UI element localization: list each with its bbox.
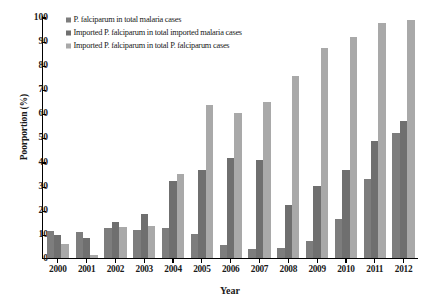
x-tick-mark [317, 259, 318, 263]
x-tick-mark [115, 259, 116, 263]
x-tick-label: 2002 [101, 264, 130, 274]
x-tick-cell [187, 259, 216, 263]
x-axis-title: Year [42, 285, 418, 296]
bar [285, 205, 292, 257]
bar [112, 222, 119, 258]
bar [407, 20, 414, 258]
bar [256, 160, 263, 258]
x-tick-mark [201, 259, 202, 263]
x-tick-mark [403, 259, 404, 263]
bar [364, 179, 371, 258]
x-tick-mark [57, 259, 58, 263]
x-tick-label: 2005 [187, 264, 216, 274]
bar-group [274, 16, 303, 258]
x-tick-label: 2009 [303, 264, 332, 274]
bar-group [216, 16, 245, 258]
bar [90, 255, 97, 257]
bar-group [159, 16, 188, 258]
legend-label: Imported P. falciparum in total imported… [74, 28, 242, 37]
legend-swatch-icon [66, 44, 71, 49]
x-tick-mark [288, 259, 289, 263]
bar [177, 174, 184, 258]
bar [371, 141, 378, 258]
bar [227, 158, 234, 258]
x-tick-cell [389, 259, 418, 263]
bar-group [101, 16, 130, 258]
legend-label: P. falciparum in total malaria cases [74, 15, 182, 24]
x-tick-cell [332, 259, 361, 263]
chart-legend: P. falciparum in total malaria casesImpo… [66, 13, 242, 52]
legend-label: Imported P. falciparum in total P. falci… [74, 41, 230, 50]
x-tick-label: 2004 [159, 264, 188, 274]
x-tick-mark [172, 259, 173, 263]
bar-group [130, 16, 159, 258]
bar-group [72, 16, 101, 258]
x-tick-mark [144, 259, 145, 263]
bar [350, 37, 357, 258]
bar-group [332, 16, 361, 258]
legend-swatch-icon [66, 18, 71, 23]
bar [277, 248, 284, 257]
legend-item: Imported P. falciparum in total imported… [66, 26, 242, 39]
bar [61, 244, 68, 258]
x-tick-label: 2007 [245, 264, 274, 274]
bar [313, 186, 320, 257]
x-axis-labels: 2000200120022003200420052006200720082009… [43, 264, 418, 274]
bar [104, 228, 111, 257]
x-tick-label: 2003 [130, 264, 159, 274]
bar [54, 235, 61, 258]
bar [400, 121, 407, 258]
bar-group [360, 16, 389, 258]
x-tick-label: 2011 [360, 264, 389, 274]
bar [392, 133, 399, 258]
bar [220, 245, 227, 258]
x-tick-mark [86, 259, 87, 263]
x-tick-mark [259, 259, 260, 263]
bar [206, 105, 213, 257]
x-tick-cell [360, 259, 389, 263]
x-tick-mark [374, 259, 375, 263]
bar [321, 48, 328, 257]
bar [378, 23, 385, 257]
x-tick-label: 2008 [274, 264, 303, 274]
bar [133, 230, 140, 258]
bar [234, 113, 241, 258]
bar [292, 76, 299, 257]
bar-group [389, 16, 418, 258]
x-tick-cell [303, 259, 332, 263]
bar [141, 214, 148, 257]
bar-group [187, 16, 216, 258]
x-tick-cell [43, 259, 72, 263]
x-tick-cell [72, 259, 101, 263]
x-tick-label: 2010 [332, 264, 361, 274]
bar-group [303, 16, 332, 258]
plot-area: 1009080706050403020100 [42, 16, 418, 259]
bar [162, 228, 169, 258]
legend-item: Imported P. falciparum in total P. falci… [66, 39, 242, 52]
bar [148, 226, 155, 257]
bar [248, 249, 255, 257]
x-tick-label: 2012 [389, 264, 418, 274]
bar [119, 227, 126, 257]
x-tick-label: 2001 [72, 264, 101, 274]
legend-swatch-icon [66, 31, 71, 36]
bar [263, 102, 270, 258]
bar [169, 181, 176, 258]
x-tick-cell [130, 259, 159, 263]
y-axis-title: Poorportion (%) [19, 72, 29, 182]
x-tick-cell [101, 259, 130, 263]
x-tick-label: 2000 [43, 264, 72, 274]
bar [83, 238, 90, 257]
x-tick-cell [216, 259, 245, 263]
x-axis-ticks [43, 259, 418, 263]
bar-groups [43, 16, 418, 258]
bar-group [43, 16, 72, 258]
x-tick-mark [230, 259, 231, 263]
bar [76, 232, 83, 257]
x-tick-label: 2006 [216, 264, 245, 274]
legend-item: P. falciparum in total malaria cases [66, 13, 242, 26]
x-tick-cell [245, 259, 274, 263]
chart-container: Poorportion (%) 1009080706050403020100 2… [0, 0, 432, 306]
bar-group [245, 16, 274, 258]
bar [306, 241, 313, 258]
